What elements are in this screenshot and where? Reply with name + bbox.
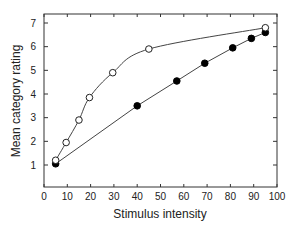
filled-circle-marker [229, 45, 236, 52]
filled-circle-marker [134, 103, 141, 110]
plot-frame [44, 14, 277, 187]
filled-circle-marker [201, 60, 208, 67]
x-tick-label: 90 [248, 191, 260, 202]
x-axis-label: Stimulus intensity [113, 207, 206, 221]
x-tick-label: 70 [202, 191, 214, 202]
x-tick-label: 50 [155, 191, 167, 202]
open-circle-marker [52, 157, 59, 164]
y-tick-label: 2 [30, 136, 36, 147]
open-circle-marker [146, 46, 153, 53]
x-tick-label: 100 [269, 191, 286, 202]
y-tick-label: 6 [30, 41, 36, 52]
open-circle-marker [262, 24, 269, 31]
open-circle-marker [63, 139, 70, 146]
open-circle-marker [86, 94, 93, 101]
x-tick-label: 10 [62, 191, 74, 202]
x-tick-label: 80 [225, 191, 237, 202]
y-tick-label: 5 [30, 65, 36, 76]
y-tick-label: 1 [30, 160, 36, 171]
line-chart: 01020304050607080901001234567 Stimulus i… [0, 0, 298, 229]
x-tick-label: 40 [132, 191, 144, 202]
y-tick-label: 7 [30, 18, 36, 29]
axes: 01020304050607080901001234567 [30, 14, 285, 202]
filled-circle-marker [248, 35, 255, 42]
filled-circle-marker [174, 78, 181, 85]
y-axis-label: Mean category rating [9, 45, 23, 158]
x-tick-label: 60 [178, 191, 190, 202]
y-tick-label: 4 [30, 89, 36, 100]
open-circle-marker [76, 117, 83, 124]
x-tick-label: 20 [85, 191, 97, 202]
x-tick-label: 0 [41, 191, 47, 202]
y-tick-label: 3 [30, 112, 36, 123]
x-tick-label: 30 [108, 191, 120, 202]
open-circle-marker [109, 69, 116, 76]
